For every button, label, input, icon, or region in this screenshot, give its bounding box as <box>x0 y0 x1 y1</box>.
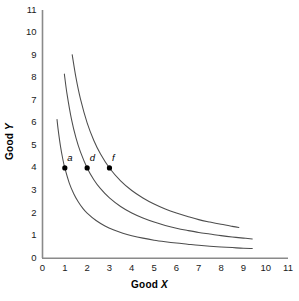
y-tick-label-3: 3 <box>21 184 37 195</box>
data-point-f <box>107 165 112 170</box>
y-tick-label-1: 1 <box>21 229 37 240</box>
y-axis-title: Good Y <box>4 112 15 172</box>
data-point-markers <box>62 165 112 170</box>
x-tick-label-3: 3 <box>101 262 117 273</box>
y-tick-label-5: 5 <box>21 139 37 150</box>
x-tick-label-2: 2 <box>79 262 95 273</box>
x-tick-label-7: 7 <box>191 262 207 273</box>
y-tick-label-8: 8 <box>21 71 37 82</box>
y-tick-label-4: 4 <box>21 161 37 172</box>
indifference-curve-3 <box>72 55 239 228</box>
x-tick-label-10: 10 <box>258 262 274 273</box>
plot-area <box>0 0 299 301</box>
indifference-curve-chart: 01234567891011 01234567891011 adf Good X… <box>0 0 299 301</box>
x-axis-title: Good X <box>0 279 299 290</box>
data-point-a <box>62 165 67 170</box>
point-label-f: f <box>112 152 115 163</box>
indifference-curve-1 <box>57 119 252 248</box>
data-point-d <box>85 165 90 170</box>
x-axis-title-variable: X <box>161 279 168 290</box>
y-tick-label-11: 11 <box>21 4 37 15</box>
point-label-d: d <box>90 152 95 163</box>
point-label-a: a <box>67 152 72 163</box>
x-tick-label-9: 9 <box>235 262 251 273</box>
y-tick-label-10: 10 <box>21 26 37 37</box>
y-axis-title-prefix: Good <box>4 130 15 160</box>
y-tick-label-0: 0 <box>21 252 37 263</box>
y-tick-label-6: 6 <box>21 116 37 127</box>
x-tick-label-11: 11 <box>280 262 296 273</box>
y-axis-title-variable: Y <box>4 123 15 130</box>
x-tick-label-8: 8 <box>213 262 229 273</box>
x-tick-label-6: 6 <box>168 262 184 273</box>
x-axis-title-prefix: Good <box>131 279 161 290</box>
curve-group <box>57 55 252 249</box>
y-tick-label-2: 2 <box>21 207 37 218</box>
x-tick-label-0: 0 <box>35 262 51 273</box>
y-tick-label-7: 7 <box>21 94 37 105</box>
x-tick-label-1: 1 <box>57 262 73 273</box>
y-tick-label-9: 9 <box>21 49 37 60</box>
x-tick-label-5: 5 <box>146 262 162 273</box>
x-tick-label-4: 4 <box>124 262 140 273</box>
axis-lines <box>42 10 288 258</box>
